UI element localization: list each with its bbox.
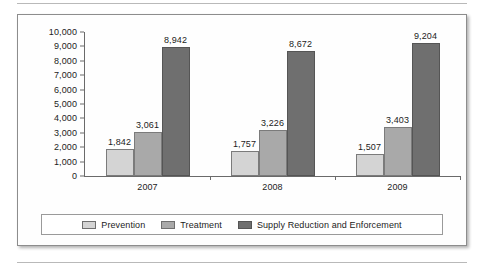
bar[interactable] (231, 151, 259, 176)
bar-group: 1,5073,4039,204 (335, 32, 460, 176)
bar-group-bars: 1,7573,2268,672 (210, 32, 335, 176)
bar-chart: 10,0009,0008,0007,0006,0005,0004,0003,00… (18, 15, 466, 201)
bar-column: 9,204 (412, 32, 440, 176)
bar-column: 3,226 (259, 32, 287, 176)
legend-swatch-icon (82, 221, 96, 229)
bar-column: 8,942 (162, 32, 190, 176)
bar[interactable] (162, 47, 190, 176)
page-rule-top (17, 3, 467, 4)
bar-value-label: 1,842 (108, 137, 131, 147)
legend-swatch-icon (161, 221, 175, 229)
y-axis-tick-label: 3,000 (54, 128, 77, 138)
bar[interactable] (356, 154, 384, 176)
legend-label: Prevention (101, 220, 145, 230)
x-axis-category-label: 2009 (387, 182, 407, 192)
bar-column: 8,672 (287, 32, 315, 176)
bar-value-label: 8,942 (164, 35, 187, 45)
y-axis-tick-label: 4,000 (54, 113, 77, 123)
legend-label: Treatment (180, 220, 222, 230)
y-axis-tick-label: 9,000 (54, 41, 77, 51)
bar[interactable] (384, 127, 412, 176)
y-axis-tick-label: 6,000 (54, 85, 77, 95)
page-rule-bottom (17, 262, 467, 263)
bar-value-label: 3,403 (386, 115, 409, 125)
bar-group-bars: 1,5073,4039,204 (335, 32, 460, 176)
y-axis-tick-label: 5,000 (54, 99, 77, 109)
x-axis-category-label: 2007 (137, 182, 157, 192)
y-axis-tick-label: 1,000 (54, 157, 77, 167)
chart-legend: PreventionTreatmentSupply Reduction and … (41, 214, 443, 235)
bar[interactable] (412, 43, 440, 176)
y-axis-tick-label: 8,000 (54, 56, 77, 66)
bar-group-bars: 1,8423,0618,942 (85, 32, 210, 176)
x-axis-group-separator (210, 176, 211, 180)
bar-value-label: 9,204 (414, 31, 437, 41)
legend-swatch-icon (238, 221, 252, 229)
bar-value-label: 1,757 (233, 139, 256, 149)
bar-column: 3,061 (134, 32, 162, 176)
x-axis-category-label: 2008 (262, 182, 282, 192)
y-axis-tick-label: 7,000 (54, 70, 77, 80)
bar[interactable] (259, 130, 287, 176)
bar-column: 1,507 (356, 32, 384, 176)
x-axis-line (84, 176, 460, 177)
figure-frame: 10,0009,0008,0007,0006,0005,0004,0003,00… (17, 14, 467, 246)
y-axis-tick-label: 0 (72, 171, 77, 181)
legend-label: Supply Reduction and Enforcement (257, 220, 402, 230)
x-axis-end-tick (460, 176, 461, 180)
plot-area: 1,8423,0618,9421,7573,2268,6721,5073,403… (85, 32, 460, 176)
legend-item[interactable]: Supply Reduction and Enforcement (238, 220, 402, 230)
legend-item[interactable]: Prevention (82, 220, 145, 230)
bar-column: 3,403 (384, 32, 412, 176)
bar-column: 1,842 (106, 32, 134, 176)
bar-group: 1,7573,2268,672 (210, 32, 335, 176)
y-axis: 10,0009,0008,0007,0006,0005,0004,0003,00… (18, 32, 84, 176)
bar[interactable] (287, 51, 315, 176)
bar-value-label: 3,226 (261, 118, 284, 128)
bar-group: 1,8423,0618,942 (85, 32, 210, 176)
bar-value-label: 8,672 (289, 39, 312, 49)
y-axis-tick-label: 2,000 (54, 142, 77, 152)
legend-item[interactable]: Treatment (161, 220, 222, 230)
bar-value-label: 3,061 (136, 120, 159, 130)
bar-value-label: 1,507 (358, 142, 381, 152)
bar[interactable] (134, 132, 162, 176)
x-axis-group-separator (335, 176, 336, 180)
y-axis-tick-label: 10,000 (49, 27, 77, 37)
bar[interactable] (106, 149, 134, 176)
bar-column: 1,757 (231, 32, 259, 176)
